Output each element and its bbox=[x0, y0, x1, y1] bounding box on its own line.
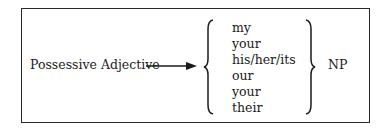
option-item: his/her/its bbox=[232, 52, 296, 68]
right-brace-icon bbox=[304, 19, 316, 115]
option-item: your bbox=[232, 84, 296, 100]
option-item: our bbox=[232, 68, 296, 84]
source-label: Possessive Adjective bbox=[30, 57, 160, 73]
option-item: their bbox=[232, 100, 296, 116]
right-arrow-icon bbox=[146, 59, 198, 73]
possessive-options-list: my your his/her/its our your their bbox=[232, 20, 296, 116]
option-item: your bbox=[232, 36, 296, 52]
target-label: NP bbox=[328, 57, 347, 73]
option-item: my bbox=[232, 20, 296, 36]
left-brace-icon bbox=[203, 19, 215, 115]
